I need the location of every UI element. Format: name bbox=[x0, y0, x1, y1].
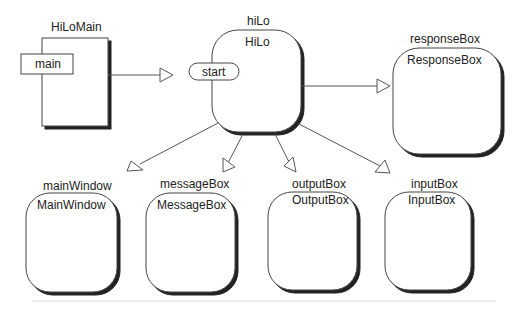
class-label: MainWindow bbox=[37, 198, 106, 212]
operation-label: main bbox=[35, 57, 61, 71]
object-box bbox=[42, 38, 108, 126]
class-label: ResponseBox bbox=[407, 53, 482, 67]
instance-label: outputBox bbox=[292, 177, 346, 191]
instance-label: inputBox bbox=[411, 177, 458, 191]
class-label: HiLo bbox=[245, 35, 270, 49]
node-inputbox[interactable]: inputBox InputBox bbox=[385, 177, 471, 290]
edge-hilo-messagebox bbox=[223, 134, 243, 172]
node-hilo[interactable]: hiLo HiLo start bbox=[189, 14, 301, 132]
instance-label: HiLoMain bbox=[51, 20, 102, 34]
node-responsebox[interactable]: responseBox ResponseBox bbox=[393, 32, 501, 154]
instance-label: messageBox bbox=[160, 177, 229, 191]
instance-label: mainWindow bbox=[43, 179, 112, 193]
instance-label: responseBox bbox=[410, 32, 480, 46]
edge-hilo-responsebox bbox=[302, 79, 390, 93]
edge-hilomain-hilo bbox=[108, 68, 173, 82]
arrowhead-icon bbox=[377, 79, 390, 93]
class-label: OutputBox bbox=[292, 193, 349, 207]
class-label: MessageBox bbox=[157, 198, 226, 212]
edge-hilo-outputbox bbox=[275, 134, 296, 172]
edge-hilo-mainwindow bbox=[127, 123, 218, 171]
class-label: InputBox bbox=[408, 193, 455, 207]
node-outputbox[interactable]: outputBox OutputBox bbox=[268, 177, 357, 290]
arrowhead-icon bbox=[375, 160, 390, 173]
node-hilomain[interactable]: HiLoMain main bbox=[21, 20, 108, 126]
operation-label: start bbox=[202, 65, 226, 79]
diagram-canvas: HiLoMain main hiLo HiLo start responseBo… bbox=[0, 0, 514, 313]
arrowhead-icon bbox=[127, 161, 143, 171]
node-mainwindow[interactable]: mainWindow MainWindow bbox=[26, 179, 117, 292]
arrowhead-icon bbox=[284, 157, 296, 172]
arrowhead-icon bbox=[160, 68, 173, 82]
node-messagebox[interactable]: messageBox MessageBox bbox=[146, 177, 235, 292]
instance-label: hiLo bbox=[247, 14, 270, 28]
edge-hilo-inputbox bbox=[299, 124, 390, 173]
